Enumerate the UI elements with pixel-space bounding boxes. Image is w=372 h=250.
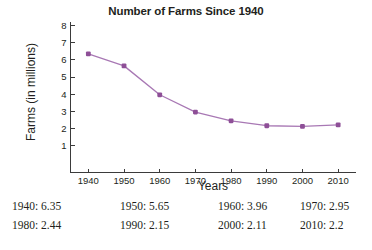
y-axis-ticks: 12345678 — [61, 20, 74, 151]
table-cell: 1950: 5.65 — [120, 200, 169, 212]
table-cell: 2000: 2.11 — [218, 219, 267, 231]
farms-line-chart-figure: Number of Farms Since 1940 12345678 1940… — [0, 0, 372, 198]
chart-axes-lines — [71, 22, 357, 173]
y-axis-label: Farms (in millions) — [24, 12, 38, 172]
table-row: 1980: 2.44 1990: 2.15 2000: 2.11 2010: 2… — [0, 219, 372, 238]
table-cell: 1960: 3.96 — [218, 200, 267, 212]
table-cell: 1970: 2.95 — [300, 200, 349, 212]
svg-text:5: 5 — [61, 71, 66, 82]
x-axis-label: Years — [70, 179, 356, 193]
table-cell: 1990: 2.15 — [120, 219, 169, 231]
table-cell: 1940: 6.35 — [12, 200, 61, 212]
svg-text:8: 8 — [61, 20, 66, 31]
table-cell: 2010: 2.2 — [300, 219, 343, 231]
svg-text:3: 3 — [61, 106, 66, 117]
svg-text:2: 2 — [61, 123, 66, 134]
data-value-table: 1940: 6.35 1950: 5.65 1960: 3.96 1970: 2… — [0, 200, 372, 238]
svg-text:1: 1 — [61, 140, 66, 151]
table-cell: 1980: 2.44 — [12, 219, 61, 231]
chart-plot-area: 12345678 1940195019601970198019902000201… — [0, 0, 372, 198]
table-row: 1940: 6.35 1950: 5.65 1960: 3.96 1970: 2… — [0, 200, 372, 219]
farms-series-markers — [86, 52, 341, 129]
svg-text:7: 7 — [61, 37, 66, 48]
svg-text:6: 6 — [61, 54, 66, 65]
svg-text:4: 4 — [61, 89, 66, 100]
